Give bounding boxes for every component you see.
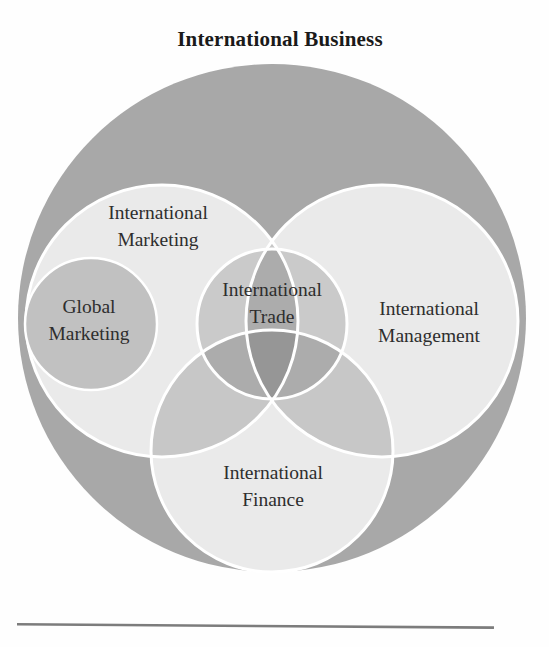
- management-label: International Management: [378, 295, 480, 349]
- trade-label: International Trade: [222, 276, 322, 330]
- trade-label-line2: Trade: [222, 303, 322, 330]
- management-label-line1: International: [378, 295, 480, 322]
- finance-label-line2: Finance: [223, 486, 323, 513]
- global-marketing-label-line2: Marketing: [48, 320, 129, 347]
- global-marketing-label: Global Marketing: [48, 293, 129, 347]
- trade-label-line1: International: [222, 276, 322, 303]
- marketing-label: International Marketing: [108, 199, 208, 253]
- bottom-rule: [17, 623, 494, 629]
- finance-label: International Finance: [223, 459, 323, 513]
- global-marketing-label-line1: Global: [48, 293, 129, 320]
- finance-label-line1: International: [223, 459, 323, 486]
- marketing-label-line2: Marketing: [108, 226, 208, 253]
- venn-figure: International Business: [0, 0, 549, 647]
- management-label-line2: Management: [378, 322, 480, 349]
- marketing-label-line1: International: [108, 199, 208, 226]
